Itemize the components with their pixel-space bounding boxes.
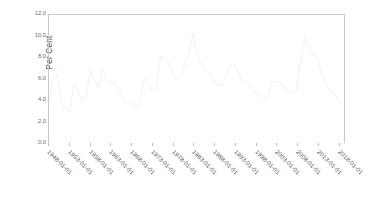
- y-tick-label: 12.0: [22, 11, 46, 17]
- plot-area: [48, 14, 345, 143]
- series-line-per-cent: [49, 15, 344, 143]
- y-tick-label: 2.0: [22, 119, 46, 125]
- x-axis-tick-labels: 1948-01-011953-01-011958-01-011963-01-01…: [0, 143, 385, 203]
- y-tick-label: 8.0: [22, 54, 46, 60]
- y-tick-label: 10.0: [22, 33, 46, 39]
- unemployment-rate-line-chart: Per Cent 0.02.04.06.08.010.012.0 1948-01…: [0, 0, 385, 203]
- y-tick-label: 6.0: [22, 76, 46, 82]
- y-tick-label: 4.0: [22, 97, 46, 103]
